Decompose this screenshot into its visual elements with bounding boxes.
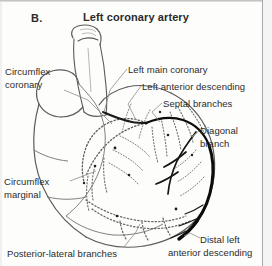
label-left-anterior-descending: Left anterior descending — [142, 81, 245, 94]
label-circumflex-coronary: Circumflex coronary — [5, 66, 50, 91]
posterior-lateral-branches-vessel — [86, 200, 190, 240]
label-septal-branches: Septal branches — [163, 98, 232, 111]
label-circumflex-marginal: Circumflex marginal — [4, 176, 49, 201]
label-circumflex-marginal-line2: marginal — [4, 189, 49, 202]
label-posterior-lateral-branches: Posterior-lateral branches — [7, 248, 117, 261]
label-distal-left-anterior-descending: Distal left anterior descending — [200, 234, 252, 259]
label-diagonal-branch: Diagonal branch — [200, 125, 238, 150]
label-circumflex-marginal-line1: Circumflex — [4, 176, 49, 189]
label-circumflex-coronary-line2: coronary — [5, 79, 50, 92]
figure-panel-b: B. Left coronary artery — [0, 0, 272, 266]
label-diagonal-branch-line2: branch — [200, 138, 238, 151]
diagonal-branch-vessel — [156, 132, 196, 194]
vessel-branch-points — [83, 111, 193, 218]
label-left-main-coronary: Left main coronary — [128, 64, 208, 77]
label-diagonal-branch-line1: Diagonal — [200, 125, 238, 138]
label-distal-lad-line1: Distal left — [200, 234, 252, 247]
heart-interior-contours — [34, 84, 163, 235]
label-circumflex-coronary-line1: Circumflex — [5, 66, 50, 79]
label-distal-lad-line2: anterior descending — [168, 247, 252, 260]
